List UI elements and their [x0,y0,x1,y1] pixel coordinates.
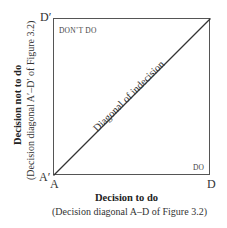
y-axis-title: Decision not to do [12,65,23,145]
x-axis-subtitle: (Decision diagonal A–D of Figure 3.2) [52,206,207,217]
x-axis-title: Decision to do [95,192,158,203]
corner-label-a: A [50,177,59,192]
corner-label-d: D [207,177,216,192]
corner-label-d-prime: D′ [40,10,51,25]
region-label-dont-do: DON’T DO [59,26,97,35]
region-label-do: DO [193,163,204,172]
y-axis-subtitle: (Decision diagonal A′–D′ of Figure 3.2) [25,21,36,180]
corner-label-a-prime: A′ [39,170,50,185]
